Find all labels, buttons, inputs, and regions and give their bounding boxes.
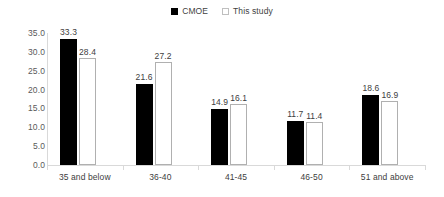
x-axis-tick-mark (47, 165, 48, 170)
bar-1-0[interactable]: 28.4 (79, 58, 96, 165)
x-axis-category-label: 41-45 (225, 172, 247, 182)
bar-value-label: 16.1 (230, 93, 247, 103)
bar-value-label: 28.4 (79, 47, 96, 57)
y-axis-tick-label: 5.0 (3, 141, 45, 151)
y-axis-tick-label: 20.0 (3, 85, 45, 95)
x-axis-category-label: 35 and below (59, 172, 111, 182)
legend-swatch-icon (222, 8, 229, 15)
legend-entry-1[interactable]: This study (222, 6, 273, 16)
legend-entry-0[interactable]: CMOE (171, 6, 208, 16)
x-axis-category-label: 46-50 (300, 172, 322, 182)
bar-1-2[interactable]: 16.1 (230, 104, 247, 165)
legend-label: This study (233, 6, 273, 16)
plot-area: 33.328.421.627.214.916.111.711.418.616.9 (47, 33, 425, 165)
bar-0-3[interactable]: 11.7 (287, 121, 304, 165)
bar-value-label: 18.6 (362, 83, 379, 93)
x-axis-category-label: 36-40 (149, 172, 171, 182)
bar-0-4[interactable]: 18.6 (362, 95, 379, 165)
bar-group: 18.616.9 (349, 33, 425, 165)
bar-chart: CMOEThis study 0.05.010.015.020.025.030.… (0, 0, 444, 197)
x-axis-tick-mark (349, 165, 350, 170)
y-axis-tick-label: 35.0 (3, 28, 45, 38)
bar-group: 33.328.4 (47, 33, 123, 165)
bar-1-4[interactable]: 16.9 (381, 101, 398, 165)
bar-value-label: 11.7 (287, 109, 303, 119)
legend-label: CMOE (182, 6, 208, 16)
y-axis-tick-label: 25.0 (3, 66, 45, 76)
bar-1-1[interactable]: 27.2 (155, 62, 172, 165)
bar-value-label: 33.3 (60, 27, 77, 37)
bar-0-0[interactable]: 33.3 (60, 39, 77, 165)
bar-value-label: 21.6 (136, 72, 153, 82)
y-axis-tick-label: 30.0 (3, 47, 45, 57)
y-axis-tick-labels: 0.05.010.015.020.025.030.035.0 (0, 0, 45, 197)
bar-0-2[interactable]: 14.9 (211, 109, 228, 165)
bar-group: 21.627.2 (123, 33, 199, 165)
x-axis-line (47, 165, 425, 166)
bar-group: 14.916.1 (198, 33, 274, 165)
bar-0-1[interactable]: 21.6 (136, 84, 153, 165)
bar-value-label: 27.2 (155, 51, 172, 61)
bar-1-3[interactable]: 11.4 (306, 122, 323, 165)
x-axis-category-label: 51 and above (361, 172, 414, 182)
x-axis-tick-mark (425, 165, 426, 170)
y-axis-tick-label: 0.0 (3, 160, 45, 170)
chart-legend: CMOEThis study (0, 6, 444, 16)
y-axis-tick-label: 15.0 (3, 103, 45, 113)
x-axis-tick-mark (198, 165, 199, 170)
legend-swatch-icon (171, 8, 178, 15)
bar-group: 11.711.4 (274, 33, 350, 165)
y-axis-tick-label: 10.0 (3, 122, 45, 132)
bar-value-label: 11.4 (306, 111, 322, 121)
bar-value-label: 14.9 (211, 97, 228, 107)
x-axis-tick-mark (274, 165, 275, 170)
bar-value-label: 16.9 (381, 90, 398, 100)
x-axis-tick-mark (123, 165, 124, 170)
